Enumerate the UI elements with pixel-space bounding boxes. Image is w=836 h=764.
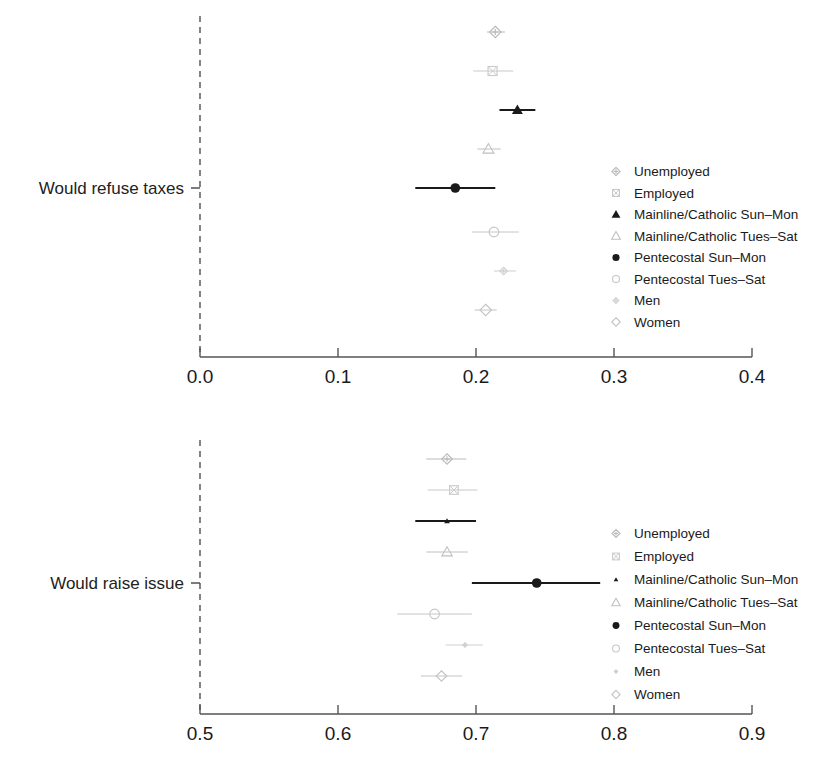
- legend-marker: [612, 598, 621, 605]
- legend-label: Unemployed: [634, 164, 710, 179]
- row-label: Would refuse taxes: [39, 179, 184, 198]
- legend-label: Women: [634, 315, 680, 330]
- legend-marker: [612, 690, 620, 698]
- estimate-row: [428, 486, 478, 495]
- estimate-row: [415, 183, 495, 193]
- estimate-row: [472, 227, 519, 237]
- legend-marker: [612, 167, 620, 175]
- estimate-marker: [532, 578, 542, 588]
- legend-marker: [612, 275, 619, 282]
- legend-marker: [612, 232, 621, 240]
- legend-label: Employed: [634, 186, 694, 201]
- legend-marker: [613, 645, 620, 652]
- legend-marker: [614, 577, 619, 581]
- legend-marker: [613, 553, 620, 560]
- x-axis-tick-label: 0.8: [601, 723, 627, 744]
- x-axis-tick-label: 0.3: [601, 366, 627, 387]
- legend-label: Mainline/Catholic Sun–Mon: [634, 207, 798, 222]
- legend-marker: [612, 318, 621, 327]
- estimate-marker: [463, 643, 468, 648]
- legend-label: Men: [634, 664, 660, 679]
- estimate-row: [397, 609, 472, 619]
- legend-marker: [613, 190, 620, 197]
- x-axis-tick-label: 0.6: [325, 723, 351, 744]
- legend-label: Unemployed: [634, 526, 710, 541]
- legend-label: Mainline/Catholic Tues–Sat: [634, 229, 798, 244]
- legend-label: Employed: [634, 549, 694, 564]
- legend-label: Pentecostal Sun–Mon: [634, 618, 766, 633]
- estimate-row: [475, 304, 497, 316]
- estimate-row: [499, 105, 535, 115]
- legend-marker: [613, 622, 620, 629]
- legend-label: Women: [634, 687, 680, 702]
- estimate-row: [421, 671, 462, 682]
- x-axis-tick-label: 0.2: [463, 366, 489, 387]
- estimate-row: [494, 267, 516, 275]
- estimate-row: [426, 454, 466, 465]
- estimate-row: [415, 518, 476, 523]
- plot-area-would-raise-issue: 0.50.60.70.80.9Would raise issueUnemploy…: [0, 400, 836, 764]
- legend-label: Pentecostal Tues–Sat: [634, 641, 766, 656]
- x-axis-tick-label: 0.7: [463, 723, 489, 744]
- estimate-row: [472, 578, 600, 588]
- estimate-row: [487, 26, 505, 38]
- estimate-marker: [442, 547, 452, 556]
- row-label: Would raise issue: [50, 574, 184, 593]
- estimate-marker: [450, 183, 460, 193]
- legend-label: Pentecostal Tues–Sat: [634, 272, 766, 287]
- legend: UnemployedEmployedMainline/Catholic Sun–…: [612, 164, 799, 330]
- x-axis-tick-label: 0.9: [739, 723, 765, 744]
- legend-marker: [613, 298, 619, 304]
- panel-would-refuse-taxes: 0.00.10.20.30.4Would refuse taxesUnemplo…: [0, 0, 836, 400]
- legend: UnemployedEmployedMainline/Catholic Sun–…: [612, 526, 799, 702]
- estimate-row: [426, 547, 467, 556]
- legend-label: Mainline/Catholic Tues–Sat: [634, 595, 798, 610]
- panel-would-raise-issue: 0.50.60.70.80.9Would raise issueUnemploy…: [0, 400, 836, 764]
- x-axis-tick-label: 0.1: [325, 366, 351, 387]
- x-axis-tick-label: 0.4: [739, 366, 766, 387]
- legend-marker: [612, 254, 619, 261]
- estimate-marker: [483, 144, 494, 154]
- legend-marker: [612, 210, 621, 218]
- legend-marker: [614, 670, 617, 673]
- x-axis-tick-label: 0.0: [187, 366, 213, 387]
- estimate-row: [473, 66, 513, 75]
- legend-marker: [612, 530, 620, 538]
- estimate-row: [446, 643, 483, 648]
- legend-label: Pentecostal Sun–Mon: [634, 250, 766, 265]
- forest-plot-figure: 0.00.10.20.30.4Would refuse taxesUnemplo…: [0, 0, 836, 764]
- plot-area-would-refuse-taxes: 0.00.10.20.30.4Would refuse taxesUnemplo…: [0, 0, 836, 400]
- legend-label: Men: [634, 293, 660, 308]
- legend-label: Mainline/Catholic Sun–Mon: [634, 572, 798, 587]
- x-axis-tick-label: 0.5: [187, 723, 213, 744]
- estimate-row: [477, 144, 500, 154]
